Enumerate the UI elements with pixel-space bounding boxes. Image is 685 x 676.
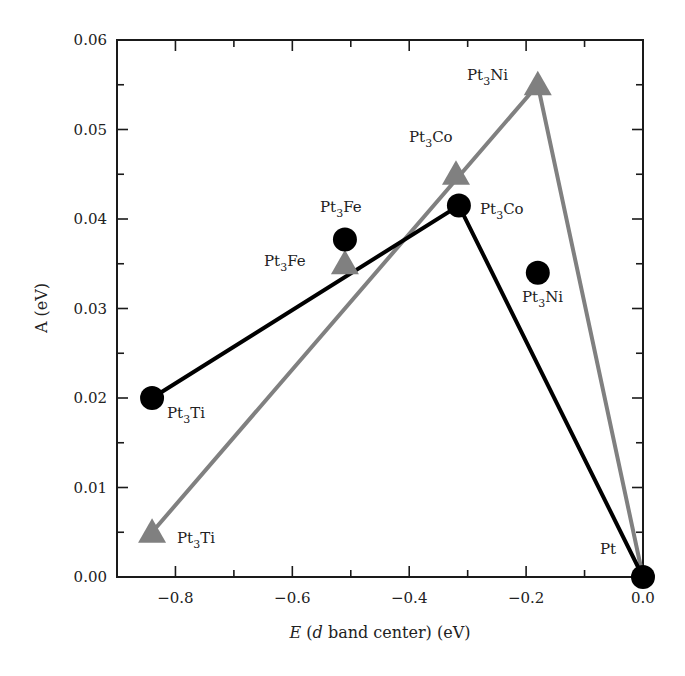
y-axis-title: A (eV): [32, 283, 51, 334]
label-pt3ti-circle: Pt3Ti: [167, 404, 205, 426]
label-pt3ni-triangle: Pt3Ni: [467, 66, 508, 88]
circle-marker-pt3fe: [333, 228, 357, 252]
y-tick-label: 0.01: [74, 479, 107, 497]
x-tick-label: −0.8: [157, 589, 193, 607]
label-pt3ni-circle: Pt3Ni: [522, 288, 563, 310]
y-tick-label: 0.00: [74, 568, 107, 586]
triangle-marker-pt3fe: [331, 250, 359, 275]
label-pt: Pt: [600, 540, 616, 558]
label-pt3fe-circle: Pt3Fe: [320, 198, 362, 220]
chart: −0.8−0.6−0.4−0.20.00.000.010.020.030.040…: [0, 0, 685, 676]
y-tick-label: 0.03: [74, 300, 107, 318]
label-pt3co-triangle: Pt3Co: [409, 128, 453, 150]
x-tick-label: −0.6: [274, 589, 310, 607]
y-tick-label: 0.02: [74, 389, 107, 407]
black-series-line: [152, 206, 643, 577]
x-tick-label: −0.2: [508, 589, 544, 607]
x-axis-title: E (d band center) (eV): [289, 623, 471, 642]
y-tick-label: 0.04: [74, 210, 107, 228]
plot-frame: [117, 40, 643, 577]
x-tick-label: −0.4: [391, 589, 427, 607]
circle-markers: [140, 194, 655, 589]
triangle-marker-pt3ni: [524, 71, 552, 96]
y-tick-label: 0.06: [74, 31, 107, 49]
gray-series-line: [152, 85, 643, 577]
label-pt3fe-triangle: Pt3Fe: [264, 252, 306, 274]
label-pt3co-circle: Pt3Co: [480, 200, 524, 222]
circles-polyline: [152, 206, 643, 577]
circle-marker-pt3ni: [526, 261, 550, 285]
x-tick-label: 0.0: [631, 589, 655, 607]
triangle-marker-pt3co: [442, 160, 470, 185]
circle-marker-pt3co: [447, 194, 471, 218]
circle-marker-pt: [631, 565, 655, 589]
circle-marker-pt3ti: [140, 386, 164, 410]
axis-ticks: [117, 40, 643, 577]
label-pt3ti-triangle: Pt3Ti: [177, 529, 215, 551]
triangles-polyline: [152, 85, 643, 577]
y-tick-label: 0.05: [74, 121, 107, 139]
